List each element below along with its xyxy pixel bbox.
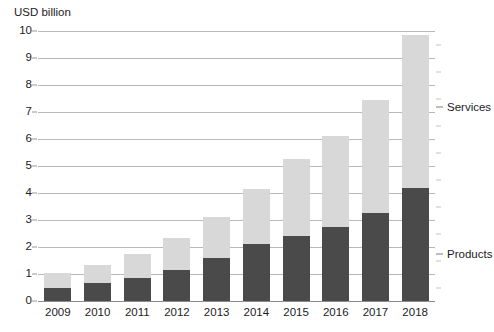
- gridline-0: [38, 301, 435, 302]
- y-tick-mark-9: [32, 58, 37, 59]
- edge-tick-mark: [436, 179, 441, 180]
- x-tick-label-2011: 2011: [125, 306, 150, 319]
- bar-segment-services-2018[interactable]: [402, 35, 429, 188]
- y-tick-label-5: 5: [6, 160, 32, 172]
- bar-group-2014[interactable]: [243, 189, 270, 301]
- x-tick-label-2017: 2017: [363, 306, 389, 319]
- edge-tick-mark: [436, 287, 441, 288]
- edge-tick-mark: [436, 125, 441, 126]
- bar-segment-products-2016[interactable]: [322, 227, 349, 301]
- callout-dash-services: [436, 106, 443, 107]
- edge-tick-mark: [436, 260, 441, 261]
- y-axis-caption: USD billion: [14, 6, 71, 19]
- callout-dash-products: [436, 253, 443, 254]
- x-tick-label-2016: 2016: [323, 306, 349, 319]
- y-tick-mark-1: [32, 274, 37, 275]
- bar-segment-products-2011[interactable]: [124, 278, 151, 301]
- bar-segment-services-2014[interactable]: [243, 189, 270, 244]
- edge-tick-mark: [436, 233, 441, 234]
- bar-segment-products-2013[interactable]: [203, 258, 230, 301]
- series-callout-label-services: Services: [447, 101, 491, 113]
- y-tick-label-1: 1: [6, 268, 32, 280]
- bar-group-2010[interactable]: [84, 265, 111, 301]
- series-callout-label-products: Products: [447, 248, 492, 260]
- bar-segment-services-2010[interactable]: [84, 265, 111, 284]
- y-tick-mark-2: [32, 247, 37, 248]
- x-tick-label-2012: 2012: [164, 306, 190, 319]
- bar-series-container: [38, 31, 435, 301]
- bar-segment-products-2018[interactable]: [402, 188, 429, 301]
- y-tick-label-7: 7: [6, 106, 32, 118]
- x-tick-label-2014: 2014: [244, 306, 270, 319]
- y-tick-label-2: 2: [6, 241, 32, 253]
- x-tick-label-2018: 2018: [402, 306, 428, 319]
- edge-tick-mark: [436, 206, 441, 207]
- y-tick-mark-7: [32, 112, 37, 113]
- bar-segment-products-2010[interactable]: [84, 283, 111, 301]
- x-tick-label-2009: 2009: [45, 306, 71, 319]
- y-tick-mark-5: [32, 166, 37, 167]
- bar-group-2013[interactable]: [203, 217, 230, 301]
- x-tick-label-2013: 2013: [204, 306, 230, 319]
- y-tick-label-8: 8: [6, 79, 32, 91]
- bar-group-2015[interactable]: [283, 159, 310, 301]
- y-tick-mark-0: [32, 301, 37, 302]
- y-tick-mark-6: [32, 139, 37, 140]
- y-tick-label-9: 9: [6, 52, 32, 64]
- plot-area: [38, 31, 435, 301]
- bar-segment-services-2013[interactable]: [203, 217, 230, 258]
- y-tick-mark-10: [32, 31, 37, 32]
- stacked-bar-chart: USD billion 012345678910 200920102011201…: [0, 0, 494, 332]
- bar-segment-products-2009[interactable]: [44, 288, 71, 302]
- edge-tick-mark: [436, 44, 441, 45]
- bar-group-2016[interactable]: [322, 136, 349, 301]
- y-tick-mark-3: [32, 220, 37, 221]
- edge-tick-mark: [436, 71, 441, 72]
- y-tick-mark-8: [32, 85, 37, 86]
- x-tick-label-2010: 2010: [85, 306, 111, 319]
- bar-segment-services-2009[interactable]: [44, 273, 71, 288]
- bar-group-2011[interactable]: [124, 254, 151, 301]
- y-tick-label-6: 6: [6, 133, 32, 145]
- edge-tick-mark: [436, 152, 441, 153]
- bar-segment-products-2014[interactable]: [243, 244, 270, 301]
- bar-group-2017[interactable]: [362, 100, 389, 301]
- bar-segment-services-2015[interactable]: [283, 159, 310, 236]
- bar-segment-services-2012[interactable]: [163, 238, 190, 270]
- y-tick-mark-4: [32, 193, 37, 194]
- x-tick-label-2015: 2015: [283, 306, 309, 319]
- bar-segment-products-2017[interactable]: [362, 213, 389, 301]
- y-axis-tick-labels: 012345678910: [0, 31, 32, 301]
- bar-segment-products-2012[interactable]: [163, 270, 190, 301]
- bar-segment-services-2016[interactable]: [322, 136, 349, 226]
- bar-segment-services-2017[interactable]: [362, 100, 389, 213]
- bar-group-2009[interactable]: [44, 273, 71, 301]
- y-tick-label-4: 4: [6, 187, 32, 199]
- edge-tick-mark: [436, 98, 441, 99]
- bar-group-2012[interactable]: [163, 238, 190, 301]
- y-tick-label-3: 3: [6, 214, 32, 226]
- y-tick-label-0: 0: [6, 295, 32, 307]
- bar-group-2018[interactable]: [402, 35, 429, 301]
- bar-segment-products-2015[interactable]: [283, 236, 310, 301]
- y-tick-label-10: 10: [6, 25, 32, 37]
- x-axis-tick-labels: 2009201020112012201320142015201620172018: [38, 306, 435, 326]
- bar-segment-services-2011[interactable]: [124, 254, 151, 278]
